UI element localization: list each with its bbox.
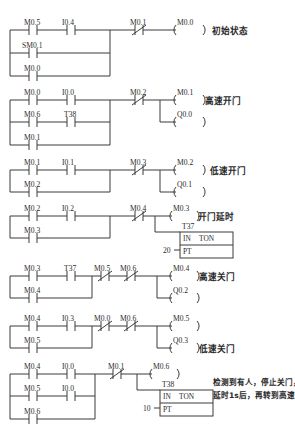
- timer-preset-value: 20: [163, 246, 171, 255]
- contact-label: I0.0: [62, 362, 74, 371]
- contact-label: I0.4: [62, 18, 74, 27]
- contact-label: M0.2: [24, 204, 40, 213]
- contact-label: M0.4: [24, 314, 40, 323]
- rung-7: M0.4 I0.0 M0.5 I0.0 M0.6 M0.1 M0.6: [10, 362, 295, 424]
- coil-label: Q0.1: [177, 180, 192, 189]
- rung-4-branch-0: M0.2 I0.2: [10, 204, 110, 221]
- coil-branch-wire: [160, 170, 176, 192]
- coil-label: Q0.0: [177, 110, 192, 119]
- rung-7-branch-2: M0.6: [10, 407, 95, 424]
- rung-1-branch-1: SM0.1: [10, 41, 110, 58]
- rung-comment: 开门延时: [198, 211, 234, 222]
- rung-comment: 低速关门: [198, 343, 235, 354]
- rung-comment: 检测到有人，停止关门，: [213, 377, 295, 387]
- contact-label: M0.1: [108, 362, 124, 371]
- rung-comment: 低速开门: [209, 165, 246, 176]
- coil-label: Q0.2: [173, 286, 188, 295]
- contact-label: I0.0: [62, 384, 74, 393]
- coil-branch-wire: [157, 326, 172, 348]
- rung-3-branch-1: M0.2: [10, 180, 110, 197]
- contact-label: I0.0: [62, 88, 74, 97]
- rung-comment: 初始状态: [212, 25, 248, 36]
- rung-comment: 高速关门: [199, 271, 235, 282]
- rung-1: M0.5 I0.4 SM0.1 M0.0 M0.1 M0.0: [10, 18, 248, 81]
- contact-nc[interactable]: [110, 165, 176, 175]
- contact-label: M0.4: [24, 286, 40, 295]
- coil-label: Q0.3: [173, 336, 188, 345]
- timer-pt-label: PT: [163, 405, 172, 414]
- contact-label: M0.5: [94, 264, 110, 273]
- coil-label: M0.6: [153, 362, 169, 371]
- contact-label: M0.1: [24, 158, 40, 167]
- contact-nc[interactable]: [110, 95, 176, 105]
- rung-comment-line2: 延时1s后，再转到高速开门: [212, 390, 295, 400]
- rung-comment: 高速开门: [205, 95, 241, 106]
- timer-in-label: IN: [163, 392, 171, 401]
- rung-6-branch-0: M0.4 I0.3: [10, 314, 92, 331]
- contact-label: M0.0: [94, 314, 110, 323]
- rung-3-branch-0: M0.1 I0.1: [10, 158, 110, 175]
- timer-branch-wire: [137, 374, 160, 390]
- coil-label: M0.2: [177, 158, 193, 167]
- rung-5-branch-1: M0.4: [10, 286, 92, 303]
- contact-label: M0.5: [24, 336, 40, 345]
- timer-type-label: TON: [179, 392, 195, 401]
- contact-label: M0.1: [24, 133, 40, 142]
- timer-name: T38: [162, 380, 174, 389]
- rung-7-branch-0: M0.4 I0.0: [10, 362, 95, 379]
- rung-2-branch-0: M0.0 I0.0: [10, 88, 110, 105]
- rung-5-parallel-rails: [10, 276, 92, 298]
- contact-label: M0.5: [24, 384, 40, 393]
- contact-label: I0.2: [62, 204, 74, 213]
- contact-label: M0.3: [130, 158, 146, 167]
- contact-label: M0.6: [120, 264, 136, 273]
- coil-branch-wire: [160, 100, 176, 122]
- timer-block-t37[interactable]: T37 IN TON PT 20: [155, 216, 233, 258]
- contact-label: M0.2: [130, 88, 146, 97]
- contact-label: M0.0: [24, 88, 40, 97]
- contact-label: M0.0: [24, 64, 40, 73]
- rung-3: M0.1 I0.1 M0.2 M0.3 M0.2 低速开门 Q0.1: [10, 158, 246, 197]
- rung-2-branch-2: M0.1: [10, 133, 110, 150]
- coil-label: M0.0: [177, 18, 193, 27]
- contact-nc[interactable]: [110, 25, 176, 35]
- rung-2-branch-1: M0.6 T38: [10, 110, 110, 127]
- contact-label: I0.1: [62, 158, 74, 167]
- timer-block-t38[interactable]: T38 IN TON PT 10: [137, 374, 213, 416]
- contact-label: M0.5: [24, 18, 40, 27]
- rung-6-branch-1: M0.5: [10, 336, 92, 353]
- rung-1-branch-2: M0.0: [10, 64, 110, 81]
- rung-4-branch-1: M0.3: [10, 226, 110, 243]
- rung-5-branch-0: M0.3 T37: [10, 264, 92, 281]
- contact-label: M0.6: [120, 314, 136, 323]
- contact-label: M0.6: [24, 110, 40, 119]
- timer-pt-label: PT: [183, 247, 192, 256]
- contact-label: M0.4: [130, 204, 146, 213]
- rung-7-branch-1: M0.5 I0.0: [10, 384, 95, 401]
- rung-6-parallel-rails: [10, 326, 92, 348]
- contact-label: M0.4: [24, 362, 40, 371]
- timer-name: T37: [182, 222, 194, 231]
- contact-label: M0.1: [130, 18, 146, 27]
- coil-label: M0.5: [173, 314, 189, 323]
- ladder-diagram-svg: M0.5 I0.4 SM0.1 M0.0 M0.1 M0.0: [0, 0, 295, 437]
- contact-label: M0.3: [24, 226, 40, 235]
- timer-type-label: TON: [199, 234, 215, 243]
- timer-preset-value: 10: [143, 404, 151, 413]
- timer-branch-wire: [155, 216, 180, 232]
- ladder-diagram-container: M0.5 I0.4 SM0.1 M0.0 M0.1 M0.0: [0, 0, 295, 437]
- contact-label: M0.2: [24, 180, 40, 189]
- coil-branch-wire: [157, 276, 172, 298]
- rung-6: M0.4 I0.3 M0.5 M0.0 M0.6 M0.5 Q0.3: [10, 314, 235, 354]
- coil-label: M0.3: [173, 204, 189, 213]
- coil-label: M0.1: [177, 88, 193, 97]
- rung-4: M0.2 I0.2 M0.3 M0.4 M0.3 开门延时: [10, 204, 234, 258]
- contact-label: I0.3: [62, 314, 74, 323]
- rung-5: M0.3 T37 M0.4 M0.5 M0.6 M0.4 高速关门 Q: [10, 264, 235, 303]
- contact-label: M0.6: [24, 407, 40, 416]
- contact-label: M0.3: [24, 264, 40, 273]
- contact-label: SM0.1: [22, 41, 43, 50]
- timer-in-label: IN: [183, 234, 191, 243]
- rung-1-branch-0: M0.5 I0.4: [10, 18, 110, 35]
- coil-label: M0.4: [173, 264, 189, 273]
